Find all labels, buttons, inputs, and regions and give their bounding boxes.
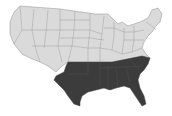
us-map <box>0 0 172 116</box>
highlighted-south-region <box>54 56 150 106</box>
